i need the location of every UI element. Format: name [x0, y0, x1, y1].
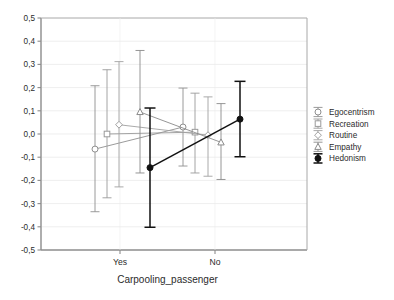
legend-marker	[315, 155, 321, 161]
y-axis-tick-label: -0,1	[21, 153, 36, 162]
x-axis-tick-label: Yes	[113, 257, 127, 267]
y-axis-tick-label: 0,2	[24, 84, 36, 93]
y-axis-tick-label: 0,5	[24, 14, 36, 23]
data-point-marker	[137, 109, 143, 115]
y-axis-tick-label: 0,3	[24, 60, 36, 69]
legend-label: Egocentrism	[329, 108, 375, 117]
y-axis-tick-label: 0,1	[24, 107, 36, 116]
data-point-marker	[92, 146, 98, 152]
legend-label: Recreation	[329, 120, 369, 129]
legend-marker	[315, 121, 321, 127]
series-line	[140, 112, 221, 142]
x-axis-title: Carpooling_passenger	[117, 274, 218, 285]
legend-marker	[315, 132, 322, 139]
data-point-marker	[237, 116, 243, 122]
error-bar-plot: -0,5-0,4-0,3-0,2-0,10,00,10,20,30,40,5Ye…	[0, 0, 394, 300]
chart-canvas: -0,5-0,4-0,3-0,2-0,10,00,10,20,30,40,5Ye…	[0, 0, 394, 300]
y-axis-tick-label: -0,3	[21, 200, 36, 209]
y-axis-tick-label: -0,4	[21, 223, 36, 232]
legend-marker	[315, 109, 321, 115]
legend-marker	[315, 143, 321, 149]
chart-figure: -0,5-0,4-0,3-0,2-0,10,00,10,20,30,40,5Ye…	[0, 0, 394, 300]
y-axis-tick-label: -0,2	[21, 176, 36, 185]
legend-label: Routine	[329, 131, 358, 140]
legend-label: Hedonism	[329, 154, 366, 163]
data-point-marker	[104, 131, 110, 137]
data-point-marker	[147, 165, 153, 171]
y-axis-tick-label: 0,0	[24, 130, 36, 139]
y-axis-tick-label: -0,5	[21, 246, 36, 255]
y-axis-tick-label: 0,4	[24, 37, 36, 46]
x-axis-tick-label: No	[210, 257, 221, 267]
legend-label: Empathy	[329, 143, 362, 152]
data-point-marker	[116, 121, 123, 128]
